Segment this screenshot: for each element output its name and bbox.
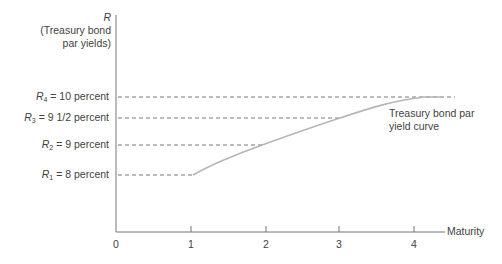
x-axis-label: Maturity xyxy=(447,225,484,237)
x-tick-4: 4 xyxy=(411,238,417,250)
label-r1: R1 = 8 percent xyxy=(42,168,109,181)
label-r2: R2 = 9 percent xyxy=(42,138,109,151)
label-r4: R4 = 10 percent xyxy=(36,90,109,103)
x-tick-0: 0 xyxy=(113,238,119,250)
x-tick-3: 3 xyxy=(336,238,342,250)
x-tick-1: 1 xyxy=(188,238,194,250)
curve-label: Treasury bond par yield curve xyxy=(389,107,474,133)
x-tick-2: 2 xyxy=(263,238,269,250)
label-r3: R3 = 9 1/2 percent xyxy=(24,111,109,124)
x-ticks xyxy=(191,226,414,232)
y-axis-label: R (Treasury bond par yields) xyxy=(0,11,111,50)
